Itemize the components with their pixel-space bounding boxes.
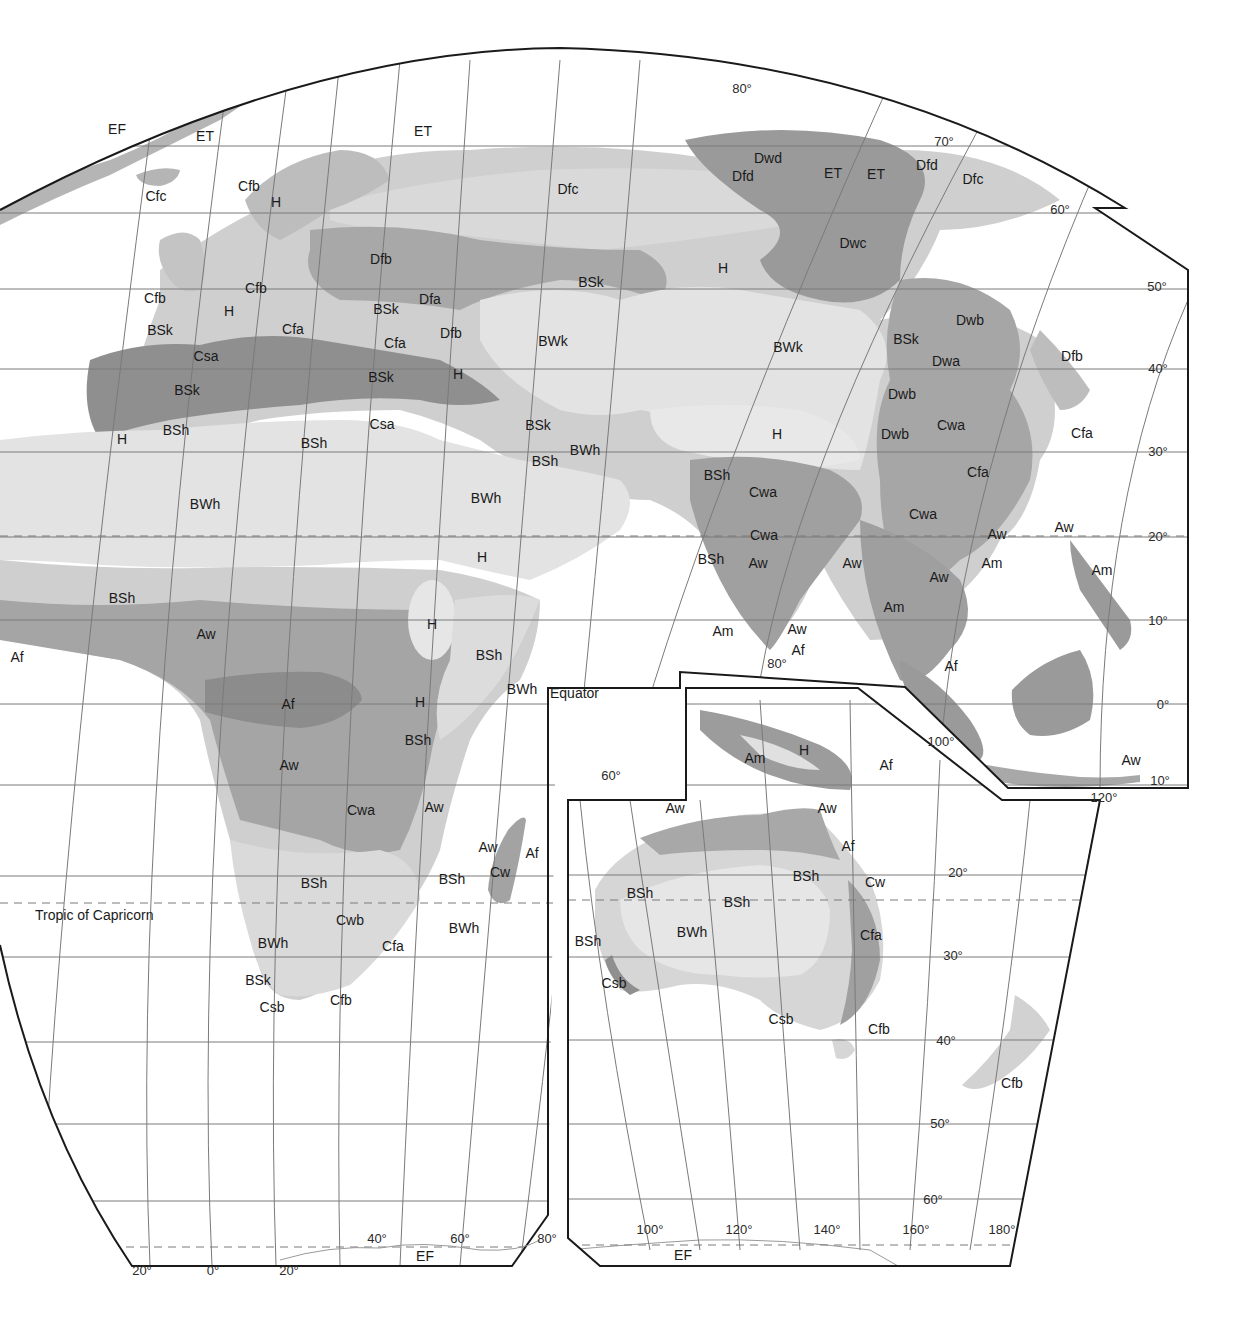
climate-zone-label: Aw	[817, 801, 836, 815]
land-philippines	[1070, 540, 1131, 650]
climate-zone-label: H	[117, 432, 127, 446]
longitude-label: 180°	[989, 1223, 1016, 1236]
land-iceland	[136, 168, 180, 186]
climate-zone-label: Dfb	[440, 326, 462, 340]
climate-zone-label: Aw	[987, 527, 1006, 541]
climate-zone-label: H	[271, 195, 281, 209]
latitude-label: 30°	[943, 949, 963, 962]
climate-zone-label: BSh	[405, 733, 431, 747]
climate-zone-label: Aw	[665, 801, 684, 815]
latitude-label: 40°	[1148, 362, 1168, 375]
climate-zone-label: BSh	[793, 869, 819, 883]
climate-zone-label: H	[415, 695, 425, 709]
climate-zone-label: Dwc	[839, 236, 866, 250]
climate-zone-label: BSh	[109, 591, 135, 605]
climate-zone-label: BWh	[471, 491, 501, 505]
longitude-label: 40°	[367, 1232, 387, 1245]
climate-zone-label: Dfb	[370, 252, 392, 266]
climate-zone-label: Cfb	[868, 1022, 890, 1036]
climate-zone-label: Dfd	[732, 169, 754, 183]
climate-zone-label: Cw	[490, 865, 510, 879]
climate-zone-label: EF	[108, 122, 126, 136]
climate-zone-label: Dwd	[754, 151, 782, 165]
climate-zone-label: Cfb	[238, 179, 260, 193]
climate-zone-label: Cfa	[382, 939, 404, 953]
climate-zone-label: Aw	[1054, 520, 1073, 534]
climate-zone-label: H	[718, 261, 728, 275]
climate-zone-label: Af	[944, 659, 957, 673]
climate-zone-label: BSh	[627, 886, 653, 900]
latitude-label: 10°	[1148, 614, 1168, 627]
climate-zone-label: BSh	[439, 872, 465, 886]
climate-zone-label: Cwa	[347, 803, 375, 817]
climate-zone-label: Cfa	[967, 465, 989, 479]
land-borneo	[1012, 650, 1094, 736]
climate-zone-label: Am	[1092, 563, 1113, 577]
climate-zone-label: H	[224, 304, 234, 318]
longitude-label: 100°	[928, 735, 955, 748]
longitude-label: 160°	[903, 1223, 930, 1236]
climate-zone-label: Dwa	[932, 354, 960, 368]
land-java	[960, 760, 1140, 787]
land-antarctica-main	[280, 1240, 540, 1260]
latitude-label: 70°	[934, 135, 954, 148]
climate-zone-label: BSk	[147, 323, 173, 337]
climate-zone-label: Cfa	[384, 336, 406, 350]
climate-zone-label: BSh	[698, 552, 724, 566]
climate-zone-label: Aw	[196, 627, 215, 641]
climate-zone-label: Aw	[478, 840, 497, 854]
longitude-label: 60°	[601, 769, 621, 782]
latitude-label: 0°	[1157, 698, 1169, 711]
land-greenland-ef	[0, 85, 270, 225]
climate-map: Equator Tropic of Capricorn 80°70°60°50°…	[0, 0, 1247, 1338]
climate-zone-label: Cfa	[1071, 426, 1093, 440]
climate-zone-label: Aw	[929, 570, 948, 584]
climate-zone-label: Af	[791, 643, 804, 657]
longitude-label: 120°	[726, 1223, 753, 1236]
land-tasmania	[832, 1039, 855, 1059]
climate-zone-label: BWh	[258, 936, 288, 950]
climate-zone-label: Am	[745, 751, 766, 765]
climate-zone-label: ET	[824, 166, 842, 180]
climate-zone-label: BSk	[893, 332, 919, 346]
climate-zone-label: Cfb	[144, 291, 166, 305]
climate-zone-label: BSk	[578, 275, 604, 289]
latitude-label: 60°	[1050, 203, 1070, 216]
climate-zone-label: Cfb	[245, 281, 267, 295]
climate-zone-label: Csa	[194, 349, 219, 363]
climate-zone-label: BWh	[190, 497, 220, 511]
climate-zone-label: Cfc	[146, 189, 167, 203]
climate-zone-label: Dwb	[956, 313, 984, 327]
climate-zone-label: BSk	[174, 383, 200, 397]
tropic-of-capricorn-label: Tropic of Capricorn	[35, 908, 154, 922]
climate-zone-label: BWh	[507, 682, 537, 696]
latitude-label: 40°	[936, 1034, 956, 1047]
climate-zone-label: Aw	[424, 800, 443, 814]
climate-zone-label: Am	[713, 624, 734, 638]
climate-zone-label: Aw	[748, 556, 767, 570]
climate-zone-label: H	[477, 550, 487, 564]
climate-zone-label: Am	[884, 600, 905, 614]
climate-zone-label: Af	[10, 650, 23, 664]
climate-zone-label: Cfa	[282, 322, 304, 336]
longitude-label: 20°	[132, 1264, 152, 1277]
climate-zone-label: Cwa	[937, 418, 965, 432]
climate-zone-label: ET	[196, 129, 214, 143]
climate-zone-label: Cfa	[860, 928, 882, 942]
climate-zone-label: BWh	[570, 443, 600, 457]
climate-zone-label: Csa	[370, 417, 395, 431]
latitude-label: 30°	[1148, 445, 1168, 458]
latitude-label: 50°	[1147, 280, 1167, 293]
climate-zone-label: BSh	[704, 468, 730, 482]
latitude-label: 20°	[1148, 530, 1168, 543]
climate-zone-label: Csb	[260, 1000, 285, 1014]
climate-zone-label: Aw	[279, 758, 298, 772]
latitude-label: 80°	[732, 82, 752, 95]
climate-zone-label: Af	[879, 758, 892, 772]
climate-zone-label: Cfb	[330, 993, 352, 1007]
climate-zone-label: BSk	[525, 418, 551, 432]
longitude-label: 80°	[537, 1232, 557, 1245]
climate-zone-label: BSh	[163, 423, 189, 437]
climate-zone-label: Dfc	[558, 182, 579, 196]
climate-zone-label: Af	[281, 697, 294, 711]
